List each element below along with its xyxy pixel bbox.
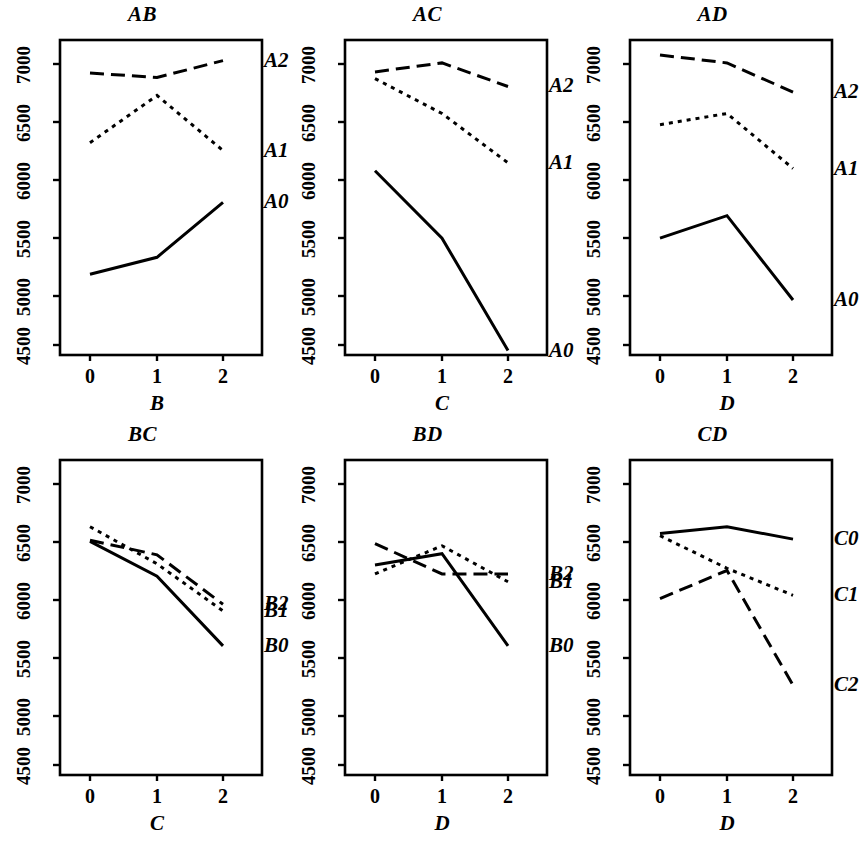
- series-line-a0: [660, 216, 793, 300]
- x-tick-label: 1: [142, 785, 172, 808]
- axis-frame: [345, 40, 547, 355]
- y-tick-label: 6500: [583, 513, 605, 573]
- y-tick-label: 5500: [583, 629, 605, 689]
- x-tick-label: 2: [778, 365, 808, 388]
- y-tick-label: 7000: [13, 35, 35, 95]
- axis-frame: [60, 460, 262, 775]
- axis-frame: [630, 40, 832, 355]
- x-tick-label: 0: [75, 785, 105, 808]
- axis-frame: [345, 460, 547, 775]
- y-tick-label: 7000: [298, 35, 320, 95]
- plot-area: [285, 0, 570, 420]
- x-tick-label: 1: [427, 365, 457, 388]
- x-axis-title: B: [137, 391, 177, 416]
- x-tick-label: 2: [493, 785, 523, 808]
- series-line-b1: [90, 527, 223, 611]
- series-line-b2: [375, 544, 508, 574]
- series-line-b2: [90, 540, 223, 604]
- x-tick-label: 1: [712, 365, 742, 388]
- plot-area: [570, 0, 855, 420]
- y-tick-label: 6500: [298, 93, 320, 153]
- y-tick-label: 6000: [583, 571, 605, 631]
- x-tick-label: 0: [360, 785, 390, 808]
- y-tick-label: 5000: [298, 687, 320, 747]
- x-tick-label: 1: [712, 785, 742, 808]
- y-tick-label: 6000: [583, 151, 605, 211]
- panel-ab: AB450050005500600065007000012BA2A1A0: [0, 0, 285, 420]
- x-axis-title: D: [707, 391, 747, 416]
- x-tick-label: 0: [75, 365, 105, 388]
- series-line-a1: [90, 96, 223, 151]
- x-axis-title: D: [707, 811, 747, 836]
- series-label-c2: C2: [834, 672, 859, 697]
- y-tick-label: 6000: [298, 151, 320, 211]
- y-tick-label: 5500: [583, 209, 605, 269]
- x-tick-label: 2: [493, 365, 523, 388]
- y-tick-label: 6000: [13, 151, 35, 211]
- x-tick-label: 0: [360, 365, 390, 388]
- series-line-c0: [660, 527, 793, 539]
- series-label-c0: C0: [834, 526, 859, 551]
- x-tick-label: 2: [208, 365, 238, 388]
- plot-area: [0, 0, 285, 420]
- y-tick-label: 7000: [583, 455, 605, 515]
- series-label-a1: A1: [834, 156, 859, 181]
- y-tick-label: 5500: [298, 629, 320, 689]
- plot-area: [570, 420, 855, 840]
- series-line-a2: [660, 55, 793, 92]
- series-line-b0: [90, 541, 223, 646]
- panel-bc: BC450050005500600065007000012CB2B1B0: [0, 420, 285, 840]
- series-label-a0: A0: [834, 287, 859, 312]
- y-tick-label: 5000: [13, 267, 35, 327]
- y-tick-label: 5500: [13, 209, 35, 269]
- y-tick-label: 6000: [13, 571, 35, 631]
- x-tick-label: 1: [427, 785, 457, 808]
- x-tick-label: 0: [645, 365, 675, 388]
- y-tick-label: 5000: [13, 687, 35, 747]
- y-tick-label: 6500: [298, 513, 320, 573]
- y-tick-label: 7000: [13, 455, 35, 515]
- x-axis-title: C: [422, 391, 462, 416]
- y-tick-label: 6500: [13, 513, 35, 573]
- panel-cd: CD450050005500600065007000012DC0C1C2: [570, 420, 855, 840]
- x-tick-label: 2: [778, 785, 808, 808]
- y-tick-label: 5000: [583, 267, 605, 327]
- x-tick-label: 1: [142, 365, 172, 388]
- series-line-b0: [375, 554, 508, 646]
- series-line-a1: [660, 114, 793, 169]
- y-tick-label: 6500: [13, 93, 35, 153]
- x-axis-title: C: [137, 811, 177, 836]
- series-label-a2: A2: [834, 79, 859, 104]
- panel-bd: BD450050005500600065007000012DB2B1B0: [285, 420, 570, 840]
- y-tick-label: 5500: [13, 629, 35, 689]
- y-tick-label: 7000: [583, 35, 605, 95]
- series-label-c1: C1: [834, 582, 859, 607]
- y-tick-label: 6000: [298, 571, 320, 631]
- series-line-a0: [90, 202, 223, 274]
- y-tick-label: 5000: [583, 687, 605, 747]
- series-line-c2: [660, 571, 793, 686]
- series-line-a2: [90, 61, 223, 78]
- series-line-a0: [375, 171, 508, 351]
- panel-ac: AC450050005500600065007000012CA2A1A0: [285, 0, 570, 420]
- series-line-c1: [660, 536, 793, 596]
- panel-ad: AD450050005500600065007000012DA2A1A0: [570, 0, 855, 420]
- axis-frame: [60, 40, 262, 355]
- y-tick-label: 6500: [583, 93, 605, 153]
- y-tick-label: 7000: [298, 455, 320, 515]
- x-tick-label: 2: [208, 785, 238, 808]
- series-line-a1: [375, 79, 508, 163]
- series-line-a2: [375, 63, 508, 87]
- axis-frame: [630, 460, 832, 775]
- x-axis-title: D: [422, 811, 462, 836]
- plot-area: [0, 420, 285, 840]
- plot-area: [285, 420, 570, 840]
- x-tick-label: 0: [645, 785, 675, 808]
- y-tick-label: 5500: [298, 209, 320, 269]
- y-tick-label: 5000: [298, 267, 320, 327]
